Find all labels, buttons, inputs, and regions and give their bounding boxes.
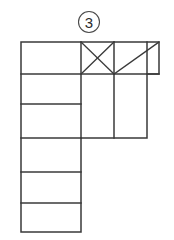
net-diagram: 3: [0, 0, 174, 240]
figure-number: 3: [85, 14, 93, 31]
face-left-column-row-3: [21, 104, 81, 138]
face-left-column-row-5: [21, 172, 81, 203]
face-right-column-bottom: [114, 74, 147, 138]
face-left-column-row-4: [21, 138, 81, 172]
face-middle-column-bottom: [81, 74, 114, 138]
face-left-column-row-6: [21, 203, 81, 232]
figure-container: 3: [0, 0, 174, 240]
face-left-column-row-1: [21, 42, 81, 74]
face-left-column-row-2: [21, 74, 81, 104]
